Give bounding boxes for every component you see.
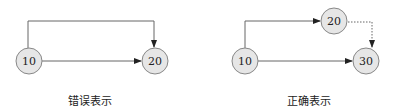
- right-caption: 正确表示: [287, 92, 331, 108]
- node-right-30: 30: [353, 48, 379, 74]
- svg-text:10: 10: [238, 55, 252, 68]
- node-left-10: 10: [16, 48, 42, 74]
- edge-left-10-20-top: [28, 21, 154, 48]
- node-left-20: 20: [142, 48, 168, 74]
- edge-right-10-20: [245, 21, 320, 48]
- diagram-canvas: 10 20 10 20 30: [0, 0, 403, 111]
- left-diagram: 10 20: [16, 21, 168, 74]
- edge-right-20-30: [348, 22, 372, 47]
- svg-text:10: 10: [22, 55, 36, 68]
- node-right-10: 10: [232, 48, 258, 74]
- svg-text:20: 20: [148, 55, 162, 68]
- right-diagram: 10 20 30: [232, 8, 379, 74]
- left-caption: 错误表示: [68, 92, 112, 108]
- svg-text:20: 20: [327, 15, 341, 28]
- node-right-20: 20: [321, 8, 347, 34]
- svg-text:30: 30: [359, 55, 373, 68]
